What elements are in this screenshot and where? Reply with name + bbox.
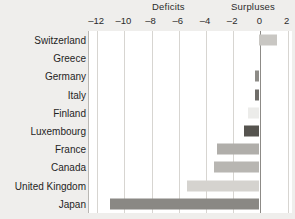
category-label: Canada [51,162,86,173]
category-label: France [55,144,86,155]
bar [255,89,259,100]
chart-row: Italy [0,86,295,104]
bar [255,71,259,82]
x-tick-label: –4 [200,15,211,26]
bar [259,35,277,46]
x-tick-label: –12 [88,15,104,26]
bar [248,107,259,118]
diverging-bar-chart: Deficits Surpluses –12–10–8–6–4–202 Swit… [0,0,295,219]
x-tick-label: 0 [257,15,262,26]
bar [217,144,259,155]
category-label: Japan [59,198,86,209]
chart-row: United Kingdom [0,177,295,195]
x-tick-label: 2 [284,15,289,26]
bar [187,180,259,191]
category-label: Germany [45,71,86,82]
deficits-band-label: Deficits [152,1,185,12]
x-tick-label: –10 [115,15,131,26]
bar [214,162,259,173]
chart-rows: SwitzerlandGreeceGermanyItalyFinlandLuxe… [0,31,295,213]
chart-row: France [0,140,295,158]
chart-row: Canada [0,158,295,176]
surpluses-band-label: Surpluses [231,1,275,12]
chart-row: Germany [0,67,295,85]
category-label: Finland [53,107,86,118]
chart-row: Finland [0,104,295,122]
chart-row: Luxembourg [0,122,295,140]
chart-row: Japan [0,195,295,213]
bar [244,126,259,137]
category-label: Luxembourg [30,126,86,137]
x-tick-label: –8 [145,15,156,26]
x-tick-label: –6 [172,15,183,26]
bar [110,198,260,209]
category-label: United Kingdom [15,180,86,191]
category-label: Italy [68,89,86,100]
chart-row: Switzerland [0,31,295,49]
category-label: Switzerland [34,35,86,46]
bottom-strip [0,213,295,219]
x-tick-label: –2 [227,15,238,26]
x-axis-tick-labels: –12–10–8–6–4–202 [0,15,295,29]
chart-row: Greece [0,49,295,67]
category-label: Greece [53,53,86,64]
